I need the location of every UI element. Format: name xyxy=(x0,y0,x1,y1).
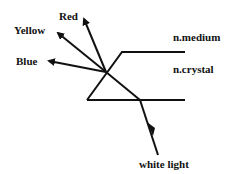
blue-ray xyxy=(49,61,106,72)
internal-ray xyxy=(106,72,140,100)
white-light-ray xyxy=(140,100,158,155)
label-red: Red xyxy=(59,11,78,22)
label-white-light: white light xyxy=(139,159,189,170)
label-blue: Blue xyxy=(16,56,37,67)
label-yellow: Yellow xyxy=(14,25,45,36)
label-crystal: n.crystal xyxy=(173,64,214,75)
label-medium: n.medium xyxy=(173,32,220,43)
